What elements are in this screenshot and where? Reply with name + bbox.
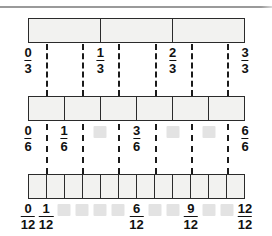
fraction-denominator: 3 — [241, 61, 248, 75]
fraction-label: 16 — [61, 124, 68, 153]
bar-sixths — [28, 96, 245, 121]
fraction-denominator: 3 — [97, 61, 104, 75]
fraction-denominator: 3 — [169, 61, 176, 75]
bar-cell — [65, 97, 101, 120]
fraction-numerator: 0 — [24, 46, 31, 61]
fraction-diagram: 03132333 06163666 0121126129121212 — [0, 0, 272, 236]
bar-cell — [101, 97, 137, 120]
bar-cell — [209, 175, 227, 198]
fraction-label-masked — [94, 204, 107, 216]
bar-thirds — [28, 18, 245, 43]
bar-cell — [137, 175, 155, 198]
fraction-numerator: 6 — [129, 202, 143, 217]
fraction-numerator: 3 — [241, 46, 248, 61]
bar-cell — [173, 175, 191, 198]
fraction-label-masked — [94, 126, 107, 138]
fraction-denominator: 12 — [21, 217, 35, 231]
fraction-label: 112 — [39, 202, 53, 231]
fraction-label-masked — [202, 204, 215, 216]
fraction-label: 36 — [133, 124, 140, 153]
fraction-label-masked — [202, 126, 215, 138]
fraction-denominator: 6 — [133, 139, 140, 153]
fraction-label-masked — [166, 204, 179, 216]
fraction-numerator: 0 — [24, 124, 31, 139]
labels-thirds: 03132333 — [0, 46, 272, 86]
fraction-label: 1212 — [238, 202, 252, 231]
fraction-denominator: 3 — [24, 61, 31, 75]
fraction-numerator: 9 — [184, 202, 198, 217]
bar-cell — [83, 175, 101, 198]
bar-cell — [29, 19, 101, 42]
fraction-numerator: 6 — [241, 124, 248, 139]
top-divider-rule — [0, 6, 272, 8]
fraction-label: 66 — [241, 124, 248, 153]
labels-twelfths: 0121126129121212 — [0, 202, 272, 236]
fraction-label: 13 — [97, 46, 104, 75]
fraction-numerator: 0 — [21, 202, 35, 217]
fraction-label: 23 — [169, 46, 176, 75]
fraction-label: 612 — [129, 202, 143, 231]
bar-cell — [137, 97, 173, 120]
bar-twelfths — [28, 174, 245, 199]
bar-cell — [155, 175, 173, 198]
fraction-numerator: 3 — [133, 124, 140, 139]
fraction-label-masked — [112, 204, 125, 216]
fraction-numerator: 12 — [238, 202, 252, 217]
bar-cell — [29, 175, 47, 198]
bar-cell — [227, 175, 244, 198]
fraction-denominator: 12 — [184, 217, 198, 231]
fraction-label-masked — [76, 204, 89, 216]
fraction-label-masked — [148, 204, 161, 216]
fraction-label-masked — [58, 204, 71, 216]
bar-cell — [209, 97, 244, 120]
bar-cell — [29, 97, 65, 120]
fraction-label: 33 — [241, 46, 248, 75]
fraction-denominator: 6 — [24, 139, 31, 153]
bar-cell — [173, 97, 209, 120]
bar-cell — [101, 19, 173, 42]
labels-sixths: 06163666 — [0, 124, 272, 164]
fraction-denominator: 12 — [39, 217, 53, 231]
bar-cell — [173, 19, 244, 42]
fraction-numerator: 2 — [169, 46, 176, 61]
fraction-denominator: 12 — [238, 217, 252, 231]
fraction-label: 06 — [24, 124, 31, 153]
fraction-label: 012 — [21, 202, 35, 231]
bar-cell — [191, 175, 209, 198]
fraction-numerator: 1 — [61, 124, 68, 139]
bar-cell — [101, 175, 119, 198]
fraction-label: 912 — [184, 202, 198, 231]
fraction-denominator: 6 — [61, 139, 68, 153]
fraction-numerator: 1 — [39, 202, 53, 217]
bar-cell — [47, 175, 65, 198]
fraction-label-masked — [166, 126, 179, 138]
fraction-label-masked — [220, 204, 233, 216]
fraction-numerator: 1 — [97, 46, 104, 61]
bar-cell — [119, 175, 137, 198]
fraction-denominator: 12 — [129, 217, 143, 231]
bar-cell — [65, 175, 83, 198]
fraction-denominator: 6 — [241, 139, 248, 153]
fraction-label: 03 — [24, 46, 31, 75]
